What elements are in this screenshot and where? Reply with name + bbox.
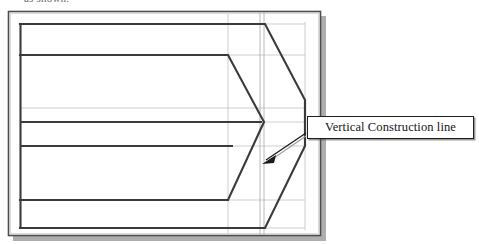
figure-screenshot: as shown.: [0, 0, 479, 244]
callout-label-text: Vertical Construction line: [325, 120, 456, 135]
callout-box-vertical-construction-line: Vertical Construction line: [307, 116, 474, 139]
page-surface: [8, 11, 321, 236]
